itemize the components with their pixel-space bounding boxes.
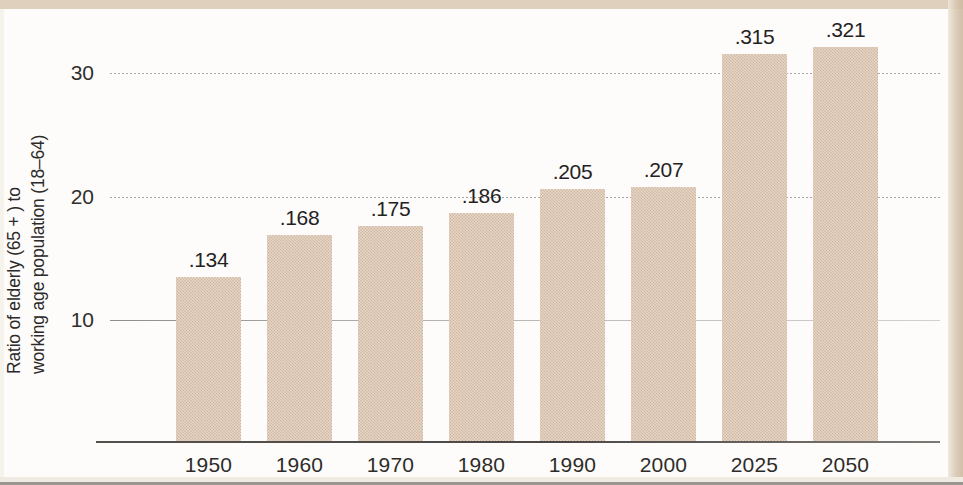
bar — [631, 187, 696, 442]
x-axis-tick-label: 1970 — [367, 453, 415, 477]
y-axis-title-line-1: Ratio of elderly (65 + ) to — [4, 187, 25, 374]
x-axis-line — [96, 441, 940, 443]
bar-value-label: .175 — [371, 197, 411, 221]
y-axis-title: Ratio of elderly (65 + ) to working age … — [8, 14, 68, 374]
bar — [176, 277, 241, 442]
x-axis-tick-label: 1960 — [276, 453, 324, 477]
bar-value-label: .207 — [644, 158, 684, 182]
bar — [813, 47, 878, 442]
x-axis-tick-label: 1990 — [549, 453, 597, 477]
bar — [358, 226, 423, 442]
y-axis-title-line-2: working age population (18–64) — [28, 135, 49, 374]
y-axis-tick-label: 10 — [71, 308, 94, 332]
bar-value-label: .186 — [462, 184, 502, 208]
x-axis-tick-label: 1980 — [458, 453, 506, 477]
plot-area: 102030 .134.168.175.186.205.207.315.321 … — [110, 18, 940, 443]
y-axis-tick-label: 30 — [71, 61, 94, 85]
bar-value-label: .168 — [280, 206, 320, 230]
bar — [449, 213, 514, 442]
x-axis-tick-label: 2000 — [640, 453, 688, 477]
y-axis-tick-label: 20 — [71, 185, 94, 209]
page-edge-right — [948, 0, 963, 485]
bar — [722, 54, 787, 442]
bar-value-label: .134 — [189, 248, 229, 272]
bar-value-label: .205 — [553, 160, 593, 184]
page-edge-bottom — [0, 477, 963, 485]
figure-bar-chart: Ratio of elderly (65 + ) to working age … — [0, 0, 963, 485]
bar — [267, 235, 332, 442]
page-edge-top — [0, 0, 963, 9]
bar-value-label: .315 — [735, 25, 775, 49]
x-axis-tick-label: 2025 — [731, 453, 779, 477]
bar-value-label: .321 — [826, 18, 866, 42]
bar — [540, 189, 605, 442]
x-axis-tick-label: 1950 — [185, 453, 233, 477]
x-axis-tick-label: 2050 — [822, 453, 870, 477]
